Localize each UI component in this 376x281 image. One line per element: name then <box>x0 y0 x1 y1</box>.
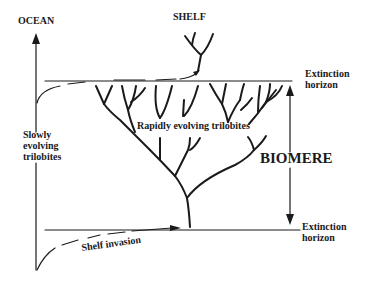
ocean-label: OCEAN <box>18 15 55 26</box>
upper-migration-curve <box>37 86 60 103</box>
biomere-label: BIOMERE <box>260 150 333 166</box>
rapidly-evolving-label: Rapidly evolving trilobites <box>137 120 250 131</box>
slowly-label-line3: trilobites <box>23 151 61 162</box>
slowly-label-line1: Slowly <box>23 129 51 140</box>
shelf-tree <box>185 33 213 71</box>
top-extinction-label-line1: Extinction <box>305 68 350 79</box>
rapid-evolution-tree <box>96 84 282 227</box>
bottom-extinction-label-line2: horizon <box>302 232 335 243</box>
biomere-diagram: OCEAN Slowly evolving trilobites SHELF E… <box>0 0 376 281</box>
shelf-label: SHELF <box>173 11 206 22</box>
bottom-extinction-label-line1: Extinction <box>302 221 347 232</box>
shelf-invasion-curve <box>37 248 55 270</box>
slowly-label-line2: evolving <box>23 140 59 151</box>
shelf-invasion-label: Shelf invasion <box>81 234 142 253</box>
top-extinction-label-line2: horizon <box>305 79 338 90</box>
